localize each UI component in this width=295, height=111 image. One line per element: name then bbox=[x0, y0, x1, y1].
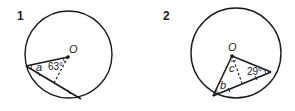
angle-arc-b bbox=[216, 90, 219, 93]
center-label-2: O bbox=[228, 41, 237, 53]
circle-2 bbox=[191, 8, 281, 98]
geometry-diagram: 1 O 63° a 2 O c b 29° bbox=[0, 0, 295, 111]
figure-2-number: 2 bbox=[163, 9, 170, 23]
unknown-label-b: b bbox=[220, 79, 226, 91]
center-point-2 bbox=[230, 54, 234, 58]
unknown-label-c: c bbox=[229, 62, 235, 74]
angle-label-63: 63° bbox=[48, 61, 63, 72]
figure-1: 1 O 63° a bbox=[17, 9, 112, 99]
unknown-label-a: a bbox=[36, 61, 42, 73]
center-point-1 bbox=[66, 55, 70, 59]
angle-label-29: 29° bbox=[247, 66, 262, 77]
figure-1-number: 1 bbox=[17, 9, 24, 23]
figure-2: 2 O c b 29° bbox=[163, 8, 281, 98]
center-label-1: O bbox=[69, 43, 78, 55]
